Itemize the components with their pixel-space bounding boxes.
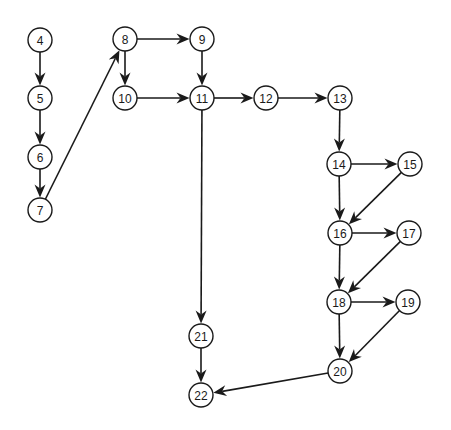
- node-11: 11: [190, 86, 214, 110]
- node-label: 19: [401, 296, 415, 310]
- node-label: 18: [332, 296, 346, 310]
- node-label: 9: [199, 33, 206, 47]
- node-label: 15: [403, 158, 417, 172]
- edge-8-to-10: [120, 51, 131, 86]
- edge-line: [354, 241, 400, 286]
- node-5: 5: [28, 86, 52, 110]
- edge-line: [339, 245, 340, 281]
- edge-16-to-17: [352, 228, 397, 239]
- edge-10-to-11: [137, 93, 190, 104]
- edge-line: [339, 176, 340, 212]
- edge-14-to-16: [334, 176, 345, 221]
- edge-line: [201, 110, 202, 315]
- node-17: 17: [397, 221, 421, 245]
- node-21: 21: [189, 324, 213, 348]
- edge-15-to-16: [349, 172, 402, 224]
- node-8: 8: [113, 27, 137, 51]
- node-label: 14: [332, 158, 346, 172]
- node-label: 4: [37, 34, 44, 48]
- node-label: 21: [194, 330, 208, 344]
- edge-20-to-22: [213, 373, 328, 396]
- node-label: 6: [37, 151, 44, 165]
- node-label: 7: [37, 204, 44, 218]
- node-label: 8: [122, 33, 129, 47]
- node-label: 22: [194, 389, 208, 403]
- edge-18-to-19: [351, 297, 396, 308]
- node-label: 12: [259, 92, 273, 106]
- edge-11-to-12: [214, 93, 254, 104]
- node-19: 19: [396, 290, 420, 314]
- node-6: 6: [28, 145, 52, 169]
- node-14: 14: [327, 152, 351, 176]
- flow-graph-diagram: 45678910111213141516171819202122: [0, 0, 451, 430]
- edge-21-to-22: [196, 348, 207, 383]
- node-15: 15: [398, 152, 422, 176]
- node-18: 18: [327, 290, 351, 314]
- node-label: 5: [37, 92, 44, 106]
- edge-18-to-20: [334, 314, 345, 359]
- node-16: 16: [328, 221, 352, 245]
- edge-16-to-18: [334, 245, 345, 290]
- node-label: 20: [333, 365, 347, 379]
- edge-line: [355, 311, 399, 356]
- edge-line: [339, 314, 340, 350]
- node-22: 22: [189, 383, 213, 407]
- edge-6-to-7: [35, 169, 46, 198]
- node-label: 13: [333, 92, 347, 106]
- edge-line: [222, 373, 328, 391]
- nodes-layer: 45678910111213141516171819202122: [28, 27, 422, 407]
- node-7: 7: [28, 198, 52, 222]
- node-label: 17: [402, 227, 416, 241]
- edge-11-to-21: [196, 110, 207, 324]
- node-9: 9: [190, 27, 214, 51]
- edge-5-to-6: [35, 110, 46, 145]
- node-12: 12: [254, 86, 278, 110]
- node-label: 11: [196, 92, 209, 106]
- edge-17-to-18: [348, 241, 401, 293]
- node-4: 4: [28, 28, 52, 52]
- edge-line: [355, 172, 401, 217]
- node-label: 16: [333, 227, 347, 241]
- node-20: 20: [328, 359, 352, 383]
- edge-8-to-9: [137, 34, 190, 45]
- edge-12-to-13: [278, 93, 328, 104]
- edge-7-to-8: [45, 50, 119, 199]
- edge-4-to-5: [35, 52, 46, 86]
- edge-13-to-14: [334, 110, 345, 152]
- edge-line: [45, 58, 115, 199]
- edge-14-to-15: [351, 159, 398, 170]
- node-13: 13: [328, 86, 352, 110]
- node-10: 10: [113, 86, 137, 110]
- node-label: 10: [118, 92, 132, 106]
- edge-19-to-20: [349, 311, 400, 363]
- edge-9-to-11: [197, 51, 208, 86]
